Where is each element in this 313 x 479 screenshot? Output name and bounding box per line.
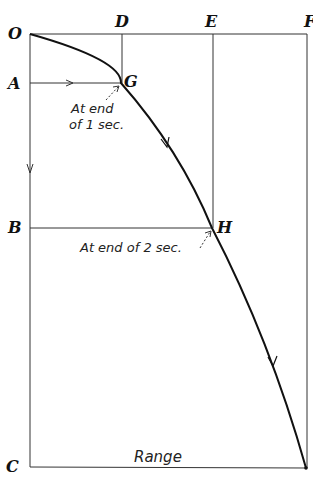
label-D: D	[115, 14, 129, 30]
label-E: E	[205, 14, 217, 30]
label-C: C	[6, 459, 19, 475]
label-A: A	[8, 76, 20, 92]
pointer-to-H	[200, 232, 210, 248]
note-1-sec-line2: of 1 sec.	[69, 118, 124, 133]
label-B: B	[8, 220, 22, 236]
range-line	[30, 467, 306, 468]
label-F: F	[304, 14, 313, 30]
note-2-sec: At end of 2 sec.	[80, 241, 182, 256]
arrow-icon	[205, 231, 211, 237]
range-end-point	[304, 466, 308, 470]
range-label: Range	[134, 449, 182, 466]
label-H: H	[217, 220, 232, 236]
arrow-icon	[113, 86, 119, 92]
pointer-to-G	[106, 87, 118, 100]
label-O: O	[8, 26, 22, 42]
label-G: G	[124, 74, 138, 90]
projectile-diagram: O D E F A G B H C At end of 1 sec. At en…	[0, 0, 313, 479]
note-1-sec-line1: At end	[71, 102, 114, 117]
